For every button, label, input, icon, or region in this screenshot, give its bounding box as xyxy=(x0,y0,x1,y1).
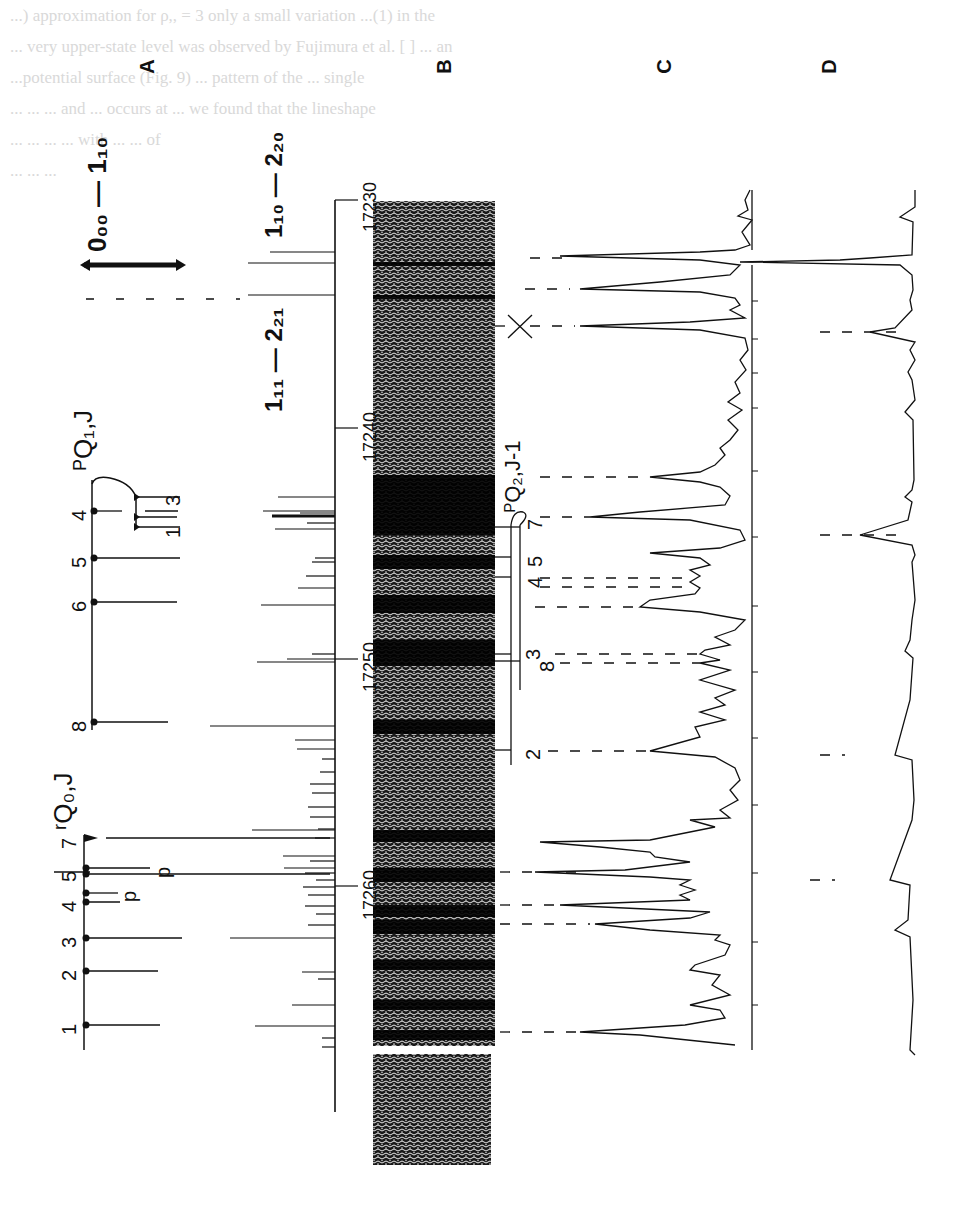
rq0j-p-mark: p xyxy=(152,867,175,878)
pq2j-label-4: 4 xyxy=(524,577,547,588)
rq0j-label-1: 1 xyxy=(58,1024,81,1035)
panel-a-assignments xyxy=(54,259,330,1050)
rq0j-label-3: 3 xyxy=(58,937,81,948)
pq2j-label-2: 2 xyxy=(522,749,545,760)
branch-pq2j-label: ᴾQ₂,J-1 xyxy=(500,440,526,512)
branch-pq1j-label: ᴾQ₁,J xyxy=(68,410,99,470)
transition-11-21-label: 1₁₁ — 2₂₁ xyxy=(260,308,288,412)
pq2j-label-5: 5 xyxy=(524,556,547,567)
spectrum-figure xyxy=(0,0,968,1212)
pq1j-label-3: 3 xyxy=(162,495,185,506)
branch-rq0j-label: ʳQ₀,J xyxy=(48,773,79,830)
tick-17250: 17250 xyxy=(360,642,381,692)
rq0j-label-7: 7 xyxy=(58,838,81,849)
pq1j-label-4: 4 xyxy=(68,510,91,521)
tick-17260: 17260 xyxy=(360,870,381,920)
tick-17240: 17240 xyxy=(360,412,381,462)
pq1j-label-1: 1 xyxy=(162,527,185,538)
pq2j-label-3: 3 xyxy=(522,649,545,660)
pq1j-label-8: 8 xyxy=(68,721,91,732)
pq1j-label-5: 5 xyxy=(68,557,91,568)
panel-c-trace xyxy=(535,190,758,1050)
rq0j-label-2: 2 xyxy=(58,970,81,981)
pq2j-ladder xyxy=(495,315,532,765)
pq2j-label-7: 7 xyxy=(524,519,547,530)
arrow-0-1-transition xyxy=(80,259,186,271)
tick-17230: 17230 xyxy=(360,182,381,232)
rq0j-label-65: 5 xyxy=(58,871,81,882)
rq0j-label-43: 4 xyxy=(58,901,81,912)
transition-0-1-label: 0₀₀ — 1₁₀ xyxy=(82,137,113,252)
pq2j-label-8: 8 xyxy=(536,661,559,672)
panel-d-trace xyxy=(740,190,915,1055)
pq1j-label-6: 6 xyxy=(68,601,91,612)
panel-b-plate xyxy=(373,201,495,1165)
dashed-connectors xyxy=(500,258,905,1032)
transition-1-2-label: 1₁₀ — 2₂₀ xyxy=(260,132,288,238)
rq0j-p-mark: p xyxy=(118,891,141,902)
